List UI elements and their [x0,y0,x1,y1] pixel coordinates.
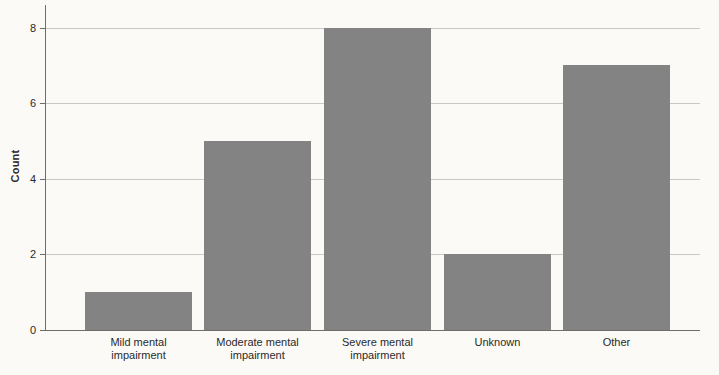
x-tick-label-line: Unknown [437,336,558,349]
x-tick-label-unknown: Unknown [437,336,558,349]
y-tick-label: 8 [30,22,36,34]
x-tick-label-line: impairment [317,349,438,362]
y-tick-label: 6 [30,97,36,109]
bar-other[interactable] [563,65,670,330]
x-tick-label-line: impairment [78,349,199,362]
y-tick-label: 0 [30,324,36,336]
plot-area: 0 2 4 6 8 [45,5,700,331]
x-tick-label-severe-mental-impairment: Severe mental impairment [317,336,438,362]
y-tick-mark [40,28,45,29]
x-tick-label-line: impairment [197,349,318,362]
y-tick-mark [40,330,45,331]
y-axis-title-text: Count [9,149,21,182]
y-axis-spine [45,5,46,331]
y-tick-mark [40,103,45,104]
x-tick-label-line: Mild mental [78,336,199,349]
x-tick-label-moderate-mental-impairment: Moderate mental impairment [197,336,318,362]
bar-moderate-mental-impairment[interactable] [204,141,311,330]
y-tick-mark [40,179,45,180]
y-tick-mark [40,254,45,255]
y-axis-title: Count [0,0,30,331]
bar-unknown[interactable] [444,254,551,330]
bar-mild-mental-impairment[interactable] [85,292,192,330]
y-tick-label: 2 [30,248,36,260]
x-tick-label-line: Other [556,336,677,349]
x-axis-spine [45,330,700,331]
x-tick-label-line: Moderate mental [197,336,318,349]
chart-figure: Count 0 2 4 6 8 [0,0,719,375]
x-tick-label-line: Severe mental [317,336,438,349]
x-axis-labels: Mild mental impairment Moderate mental i… [45,336,700,375]
x-tick-label-other: Other [556,336,677,349]
y-tick-label: 4 [30,173,36,185]
x-tick-label-mild-mental-impairment: Mild mental impairment [78,336,199,362]
bar-severe-mental-impairment[interactable] [324,28,431,330]
